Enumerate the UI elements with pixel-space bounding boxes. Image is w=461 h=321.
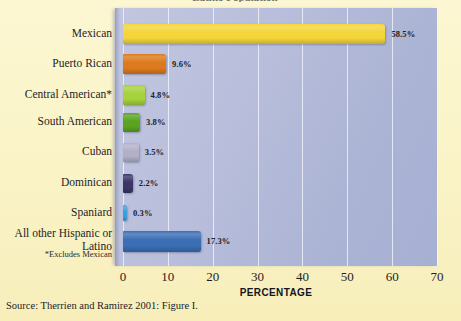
category-label-3: South American <box>38 115 112 128</box>
gridline-70 <box>437 8 438 266</box>
x-tick-10: 10 <box>161 269 174 285</box>
bar-value-5: 2.2% <box>139 178 159 188</box>
gridline-10 <box>168 8 169 266</box>
x-tick-0: 0 <box>120 269 127 285</box>
bar-0 <box>123 24 385 44</box>
bar-7 <box>123 231 201 252</box>
bar-value-7: 17.3% <box>207 236 231 246</box>
bar-3 <box>123 113 140 132</box>
bar-value-4: 3.5% <box>145 147 165 157</box>
x-tick-40: 40 <box>296 269 309 285</box>
gridline-30 <box>258 8 259 266</box>
x-tick-60: 60 <box>386 269 399 285</box>
bar-value-2: 4.8% <box>151 90 171 100</box>
bar-1 <box>123 54 166 74</box>
x-tick-20: 20 <box>206 269 219 285</box>
bar-value-1: 9.6% <box>172 59 192 69</box>
chart-title-sliver: Latino Population <box>150 0 320 2</box>
x-tick-50: 50 <box>341 269 354 285</box>
x-axis-title: PERCENTAGE <box>115 287 437 298</box>
bar-value-6: 0.3% <box>133 208 153 218</box>
category-label-5: Dominican <box>61 176 112 189</box>
bar-2 <box>123 85 145 105</box>
x-tick-30: 30 <box>251 269 264 285</box>
bar-value-0: 58.5% <box>391 29 415 39</box>
category-label-0: Mexican <box>72 27 112 40</box>
x-tick-70: 70 <box>431 269 444 285</box>
gridline-0 <box>123 8 124 266</box>
bar-value-3: 3.8% <box>146 117 166 127</box>
gridline-60 <box>392 8 393 266</box>
gridline-20 <box>213 8 214 266</box>
bar-6 <box>123 205 127 221</box>
gridline-40 <box>302 8 303 266</box>
category-label-2: Central American* <box>25 88 112 101</box>
figure-container: Latino Population MexicanPuerto RicanCen… <box>0 0 461 321</box>
footnote: *Excludes Mexican <box>45 249 112 259</box>
category-label-4: Cuban <box>82 145 112 158</box>
category-label-1: Puerto Rican <box>52 57 112 70</box>
plot-area <box>115 8 437 266</box>
bar-5 <box>123 174 133 193</box>
category-label-6: Spaniard <box>71 206 112 219</box>
gridline-50 <box>347 8 348 266</box>
bar-4 <box>123 143 139 162</box>
source-note: Source: Therrien and Ramirez 2001: Figur… <box>6 300 198 311</box>
